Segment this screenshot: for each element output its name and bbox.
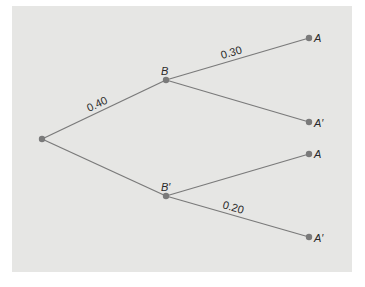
edge-label-root-b: 0.40 [85, 94, 109, 114]
edge-bprime-a [166, 154, 309, 196]
label-bprime: B′ [161, 181, 171, 193]
node-b [163, 77, 169, 83]
node-bprime [163, 193, 169, 199]
node-leaf-1 [306, 35, 312, 41]
label-leaf-3: A [313, 148, 321, 160]
label-leaf-1: A [313, 32, 321, 44]
node-leaf-3 [306, 151, 312, 157]
edge-root-b [42, 80, 166, 139]
edge-b-aprime [166, 80, 309, 122]
node-root [39, 136, 45, 142]
probability-tree: B B′ A A′ A A′ 0.40 0.30 0.20 [0, 0, 365, 287]
label-b: B [161, 65, 168, 77]
edge-root-bprime [42, 139, 166, 196]
node-leaf-4 [306, 234, 312, 240]
node-leaf-2 [306, 119, 312, 125]
label-leaf-2: A′ [313, 117, 324, 129]
label-leaf-4: A′ [313, 232, 324, 244]
